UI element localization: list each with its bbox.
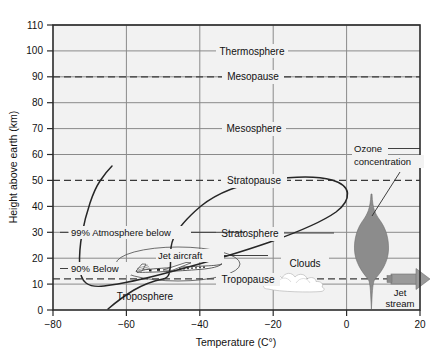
layer-label-stratopause: Stratopause xyxy=(227,175,281,186)
y-tick-80: 80 xyxy=(32,97,44,108)
y-tick-20: 20 xyxy=(32,253,44,264)
x-tick-0: 0 xyxy=(344,319,350,330)
x-tick-minus60: −60 xyxy=(118,319,135,330)
annotation-jet-stream-line2: stream xyxy=(385,298,414,309)
y-tick-10: 10 xyxy=(32,279,44,290)
annotation-clouds: Clouds xyxy=(289,258,320,269)
annotation-jet-aircraft: Jet aircraft xyxy=(158,250,203,261)
y-tick-90: 90 xyxy=(32,71,44,82)
annotation-ozone-line2: concentration xyxy=(354,156,411,167)
y-tick-110: 110 xyxy=(27,20,43,31)
annotation-99-atmosphere-below: 99% Atmosphere below xyxy=(71,227,171,238)
x-tick-minus40: −40 xyxy=(191,319,208,330)
y-tick-60: 60 xyxy=(32,149,44,160)
layer-label-mesosphere: Mesosphere xyxy=(226,123,281,134)
x-axis-title: Temperature (C°) xyxy=(196,336,277,348)
y-tick-50: 50 xyxy=(32,175,44,186)
layer-label-tropopause: Tropopause xyxy=(222,274,275,285)
x-tick-minus80: −80 xyxy=(45,319,62,330)
y-tick-30: 30 xyxy=(32,227,44,238)
layer-label-mesopause: Mesopause xyxy=(227,71,279,82)
annotation-ozone-line1: Ozone xyxy=(354,143,382,154)
y-tick-70: 70 xyxy=(32,123,44,134)
annotation-90-below: 90% Below xyxy=(71,263,119,274)
y-tick-100: 100 xyxy=(26,45,43,56)
x-tick-minus20: −20 xyxy=(265,319,282,330)
y-tick-40: 40 xyxy=(32,201,44,212)
atmosphere-temperature-profile-chart: 0 10 20 30 40 50 60 70 80 90 100 110 −80… xyxy=(0,0,442,360)
annotation-jet-stream-line1: Jet xyxy=(394,287,407,298)
layer-label-thermosphere: Thermosphere xyxy=(219,46,284,57)
layer-label-stratosphere: Stratosphere xyxy=(221,228,279,239)
x-tick-20: 20 xyxy=(414,319,426,330)
y-tick-0: 0 xyxy=(37,305,43,316)
y-axis-title: Height above earth (km) xyxy=(7,111,19,224)
layer-label-troposphere: Troposphere xyxy=(117,291,174,302)
